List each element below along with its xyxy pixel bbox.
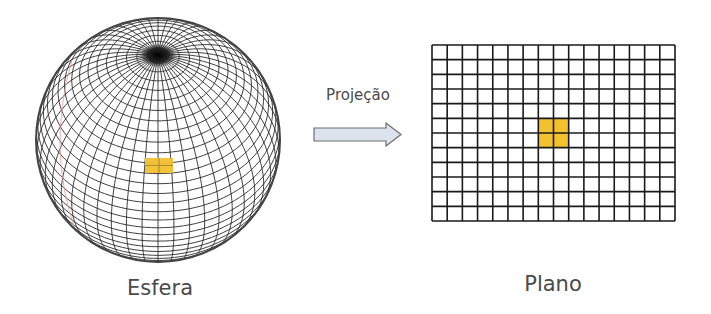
plane-highlight-cell <box>554 133 569 148</box>
sphere-label: Esfera <box>100 276 220 300</box>
projection-diagram <box>0 0 711 314</box>
plane-grid <box>432 45 675 221</box>
plane-label: Plano <box>493 272 613 296</box>
sphere-graphic <box>36 18 280 262</box>
plane-highlight-cell <box>538 118 553 133</box>
projection-arrow-icon <box>314 123 401 146</box>
north-pole <box>140 43 176 67</box>
plane-highlight-cell <box>538 133 553 148</box>
projection-label: Projeção <box>310 86 406 104</box>
plane-highlight-cell <box>554 118 569 133</box>
